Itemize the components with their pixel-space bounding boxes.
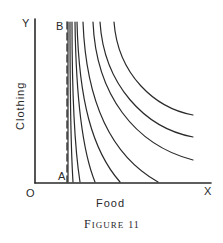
figure-caption: FIGURE11	[84, 217, 140, 231]
indifference-curve-5	[77, 22, 120, 182]
x-axis-label: Food	[96, 197, 125, 209]
indifference-curve-diagram: Y B A O X Food Clothing FIGURE11	[0, 0, 223, 243]
point-a-label: A	[58, 170, 66, 182]
x-end-label: X	[204, 185, 212, 197]
y-axis-label: Clothing	[14, 82, 26, 130]
point-b-label: B	[56, 20, 63, 32]
indifference-curve-9	[114, 22, 193, 115]
origin-label: O	[26, 187, 35, 199]
indifference-curve-7	[93, 22, 193, 160]
indifference-curve-6	[83, 22, 158, 182]
indifference-curve-8	[100, 22, 193, 137]
y-end-label: Y	[22, 17, 30, 29]
